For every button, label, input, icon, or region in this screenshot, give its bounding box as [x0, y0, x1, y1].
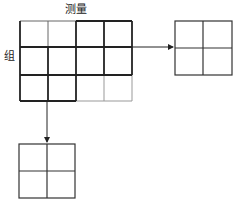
- right-grid: [175, 21, 232, 75]
- main-grid: [20, 21, 132, 101]
- bottom-grid: [19, 144, 75, 198]
- diagram-canvas: [0, 0, 236, 203]
